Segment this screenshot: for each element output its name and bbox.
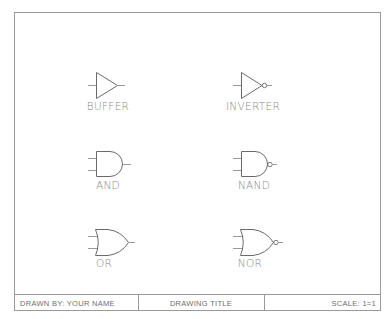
and-gate-icon	[88, 152, 131, 177]
or-label: OR	[96, 257, 112, 269]
inverter-gate-icon	[233, 73, 272, 99]
inverter-label: INVERTER	[226, 100, 280, 112]
drawing-canvas	[0, 0, 391, 319]
nor-label: NOR	[238, 257, 262, 269]
drawing-border	[15, 13, 381, 311]
drawing-title-field: DRAWING TITLE	[170, 299, 232, 308]
and-label: AND	[96, 179, 120, 191]
buffer-label: BUFFER	[87, 100, 129, 112]
nand-label: NAND	[238, 179, 270, 191]
nand-gate-icon	[233, 152, 277, 177]
nor-gate-icon	[233, 230, 283, 256]
buffer-gate-icon	[88, 73, 125, 99]
drawn-by-field: DRAWN BY: YOUR NAME	[20, 299, 115, 308]
drawing-sheet: BUFFER INVERTER AND NAND OR NOR DRAWN BY…	[0, 0, 391, 319]
scale-field: SCALE: 1=1	[332, 299, 376, 308]
or-gate-icon	[88, 230, 135, 256]
